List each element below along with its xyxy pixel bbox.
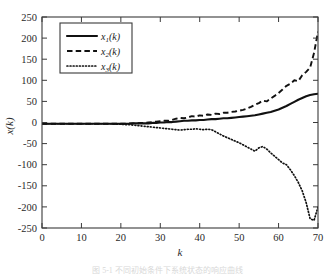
y-axis-tick-labels: 250200150100500-50-100-150-200-250 (18, 12, 37, 234)
chart-canvas: 010203040506070 250200150100500-50-100-1… (0, 0, 335, 274)
figure-caption: 图 5-1 不同初始条件下系统状态的响应曲线 (0, 266, 335, 274)
figure-container: 010203040506070 250200150100500-50-100-1… (0, 0, 335, 274)
y-tick-label: -250 (18, 223, 37, 234)
x-tick-label: 0 (39, 232, 44, 243)
y-tick-label: 0 (32, 117, 37, 128)
x-tick-label: 40 (194, 232, 205, 243)
y-tick-label: -150 (18, 180, 37, 191)
y-axis-title: x(k) (3, 117, 16, 135)
y-tick-label: 100 (21, 75, 37, 86)
y-tick-label: -100 (18, 159, 37, 170)
y-tick-label: 50 (27, 96, 38, 107)
x-tick-label: 50 (234, 232, 245, 243)
x-tick-label: 30 (155, 232, 166, 243)
chart-legend: x1(k)x2(k)x3(k) (60, 23, 132, 74)
y-tick-label: -200 (18, 202, 37, 213)
x-tick-label: 60 (273, 232, 284, 243)
y-tick-label: 150 (21, 54, 37, 65)
y-tick-label: 250 (21, 12, 37, 23)
y-tick-label: 200 (21, 33, 37, 44)
x-axis-title: k (178, 246, 184, 258)
x-tick-label: 70 (313, 232, 324, 243)
x-axis-tick-labels: 010203040506070 (39, 232, 323, 243)
x-tick-label: 10 (76, 232, 87, 243)
y-tick-label: -50 (23, 138, 37, 149)
x-tick-label: 20 (116, 232, 127, 243)
